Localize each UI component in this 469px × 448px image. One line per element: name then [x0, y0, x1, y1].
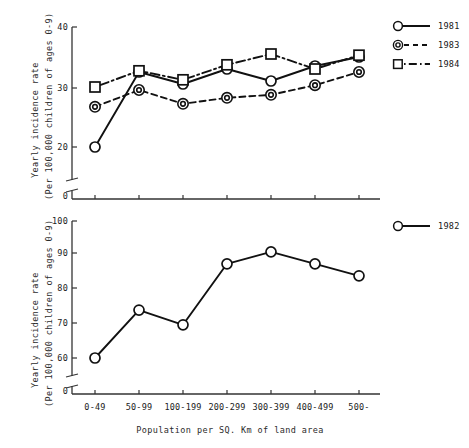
- legend-label-1982: 1982: [438, 221, 460, 231]
- legend-symbol-1984: [390, 58, 436, 70]
- data-point-1981-300-399: [266, 76, 276, 86]
- data-point-1983-100-199-inner: [181, 102, 186, 107]
- data-point-1982-100-199: [178, 320, 188, 330]
- data-point-1984-300-399: [266, 49, 276, 59]
- data-point-1983-400-499-inner: [313, 83, 318, 88]
- xtick-50-99: 50-99: [115, 402, 163, 412]
- xtick-400-499: 400-499: [289, 402, 341, 412]
- legend-symbol-1983: [390, 39, 436, 51]
- series-1982: [90, 247, 364, 363]
- figure-root: Yearly incidence rate (Per 100,000 child…: [0, 0, 469, 448]
- top-chart-panel: Yearly incidence rate (Per 100,000 child…: [0, 0, 469, 210]
- bottom-chart-plot: [0, 210, 469, 448]
- bottom-legend: 1982: [390, 220, 469, 238]
- data-point-1983-200-299-inner: [225, 96, 230, 101]
- data-point-1983-50-99-inner: [137, 88, 142, 93]
- data-point-1982-300-399: [266, 247, 276, 257]
- legend-item-1984[interactable]: 1984: [390, 58, 460, 70]
- data-point-1983-0-49-inner: [93, 105, 98, 110]
- legend-symbol-1982: [390, 220, 436, 232]
- top-series-layer: [90, 49, 364, 152]
- data-point-1984-200-299: [222, 60, 232, 70]
- top-legend: 1981 1983 1: [390, 18, 469, 74]
- bottom-chart-panel: Yearly incidence rate (Per 100,000 child…: [0, 210, 469, 448]
- data-point-1982-200-299: [222, 259, 232, 269]
- top-axis-lines: [66, 27, 380, 199]
- data-point-1982-50-99: [134, 305, 144, 315]
- legend-item-1981[interactable]: 1981: [390, 20, 460, 32]
- bottom-axis-lines: [66, 221, 380, 394]
- data-point-1982-0-49: [90, 353, 100, 363]
- data-point-1982-400-499: [310, 259, 320, 269]
- data-point-1983-500--inner: [357, 70, 362, 75]
- legend-symbol-1981: [390, 20, 436, 32]
- legend-label-1983: 1983: [438, 40, 460, 50]
- x-axis-title: Population per SQ. Km of land area: [80, 425, 380, 435]
- data-point-1982-500-: [354, 271, 364, 281]
- legend-item-1982[interactable]: 1982: [390, 220, 460, 232]
- data-point-1983-300-399-inner: [269, 93, 274, 98]
- legend-item-1983[interactable]: 1983: [390, 39, 460, 51]
- data-point-1984-400-499: [310, 64, 320, 74]
- data-point-1981-0-49: [90, 142, 100, 152]
- legend-label-1984: 1984: [438, 59, 460, 69]
- xtick-500-plus: 500-: [337, 402, 381, 412]
- legend-label-1981: 1981: [438, 21, 460, 31]
- data-point-1984-500-: [354, 50, 364, 60]
- bottom-series-layer: [90, 247, 364, 363]
- data-point-1984-50-99: [134, 66, 144, 76]
- data-point-1984-100-199: [178, 75, 188, 85]
- data-point-1984-0-49: [90, 82, 100, 92]
- xtick-0-49: 0-49: [71, 402, 119, 412]
